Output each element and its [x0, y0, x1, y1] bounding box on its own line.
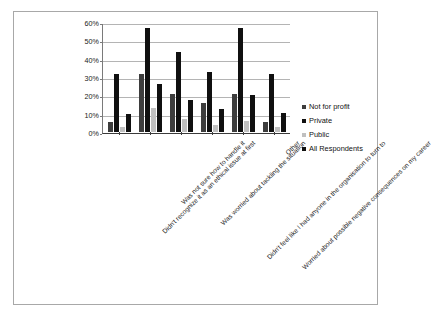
chart-frame: 0%10%20%30%40%50%60% Didn't recognize it… — [13, 11, 378, 305]
legend-item: Public — [302, 128, 394, 142]
y-axis-tick-mark — [100, 134, 102, 135]
bar — [232, 94, 237, 133]
bar — [176, 52, 181, 132]
y-axis-tick-label: 0% — [89, 130, 99, 137]
y-axis-tick-mark — [100, 97, 102, 98]
legend-label: Not for profit — [309, 103, 350, 110]
bar-groups — [104, 24, 290, 132]
legend-swatch-icon — [302, 105, 306, 109]
y-axis-tick-mark — [100, 61, 102, 62]
bar — [170, 94, 175, 133]
legend-swatch-icon — [302, 147, 306, 151]
bar — [213, 125, 218, 132]
bar — [238, 28, 243, 132]
y-axis-tick-label: 60% — [85, 20, 99, 27]
bar — [108, 122, 113, 132]
plot-canvas — [102, 24, 290, 134]
y-axis-tick-label: 20% — [85, 94, 99, 101]
bar — [250, 95, 255, 132]
bar-group — [197, 24, 228, 132]
bar — [188, 100, 193, 132]
y-axis-tick-label: 10% — [85, 112, 99, 119]
bar — [151, 108, 156, 132]
bar — [219, 109, 224, 132]
bar-group — [135, 24, 166, 132]
y-axis-tick-mark — [100, 24, 102, 25]
x-axis-tick-label: Didn't recognize it as an ethical issue … — [161, 140, 256, 235]
legend-label: All Respondents — [309, 145, 363, 152]
y-axis-tick-label: 50% — [85, 39, 99, 46]
x-axis-tick-label: Was not sure how to handle it — [180, 140, 246, 206]
y-axis-tick-mark — [100, 116, 102, 117]
bar — [126, 114, 131, 132]
plot-area: 0%10%20%30%40%50%60% — [102, 24, 290, 134]
legend-item: Not for profit — [302, 100, 394, 114]
bar — [182, 119, 187, 132]
bar-group — [228, 24, 259, 132]
x-axis-tick-mark — [212, 132, 213, 135]
bar — [275, 127, 280, 133]
legend-swatch-icon — [302, 133, 306, 137]
legend-label: Public — [309, 131, 329, 138]
x-axis-tick-mark — [119, 132, 120, 135]
bar — [207, 72, 212, 132]
legend-label: Private — [309, 117, 332, 124]
y-axis-tick-label: 40% — [85, 57, 99, 64]
bar — [157, 84, 162, 132]
bar — [281, 113, 286, 132]
x-axis-tick-mark — [274, 132, 275, 135]
x-axis-tick-mark — [181, 132, 182, 135]
y-axis-tick-label: 30% — [85, 75, 99, 82]
bar — [201, 103, 206, 132]
bar — [269, 74, 274, 132]
chart-legend: Not for profitPrivatePublicAll Responden… — [302, 100, 394, 156]
y-axis-tick-mark — [100, 79, 102, 80]
legend-item: All Respondents — [302, 142, 394, 156]
bar-group — [259, 24, 290, 132]
bar-group — [104, 24, 135, 132]
bar — [145, 28, 150, 132]
bar — [139, 74, 144, 132]
bar — [244, 121, 249, 132]
y-axis-tick-mark — [100, 42, 102, 43]
legend-swatch-icon — [302, 119, 306, 123]
bar-group — [166, 24, 197, 132]
x-axis-tick-mark — [150, 132, 151, 135]
bar — [263, 122, 268, 132]
bar — [120, 127, 125, 132]
bar — [114, 74, 119, 132]
legend-item: Private — [302, 114, 394, 128]
x-axis-tick-mark — [243, 132, 244, 135]
